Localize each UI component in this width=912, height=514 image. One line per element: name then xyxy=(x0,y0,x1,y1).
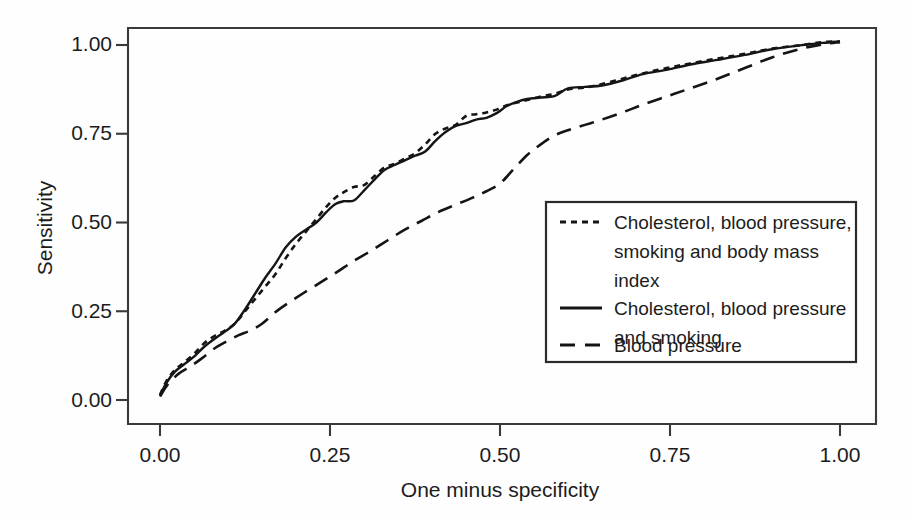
legend-label-1-line-0: Cholesterol, blood pressure xyxy=(614,298,846,319)
y-tick-label-1: 0.25 xyxy=(71,299,112,322)
roc-chart-svg: 0.00 0.25 0.50 0.75 1.00 Sensitivity 0.0… xyxy=(0,0,912,514)
y-tick-label-2: 0.50 xyxy=(71,210,112,233)
legend-label-2-line-0: Blood pressure xyxy=(614,335,742,356)
y-axis-title: Sensitivity xyxy=(33,180,56,275)
y-axis: 0.00 0.25 0.50 0.75 1.00 Sensitivity xyxy=(33,32,128,411)
x-tick-label-0: 0.00 xyxy=(140,443,181,466)
legend-label-0-line-0: Cholesterol, blood pressure, xyxy=(614,212,852,233)
chart-legend: Cholesterol, blood pressure, smoking and… xyxy=(546,202,856,362)
x-tick-label-4: 1.00 xyxy=(820,443,861,466)
legend-label-0-line-1: smoking and body mass xyxy=(614,241,819,262)
x-axis: 0.00 0.25 0.50 0.75 1.00 One minus speci… xyxy=(140,424,861,501)
x-tick-label-2: 0.50 xyxy=(480,443,521,466)
x-tick-label-3: 0.75 xyxy=(650,443,691,466)
y-tick-label-4: 1.00 xyxy=(71,32,112,55)
legend-label-0-line-2: index xyxy=(614,270,660,291)
x-tick-label-1: 0.25 xyxy=(310,443,351,466)
y-tick-label-3: 0.75 xyxy=(71,121,112,144)
roc-figure: 0.00 0.25 0.50 0.75 1.00 Sensitivity 0.0… xyxy=(0,0,912,514)
y-tick-label-0: 0.00 xyxy=(71,388,112,411)
x-axis-title: One minus specificity xyxy=(401,478,600,501)
